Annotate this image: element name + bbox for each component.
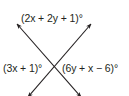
line-ascending xyxy=(28,24,91,96)
line-descending xyxy=(17,24,81,96)
angle-label-right: (6y + x − 6)° xyxy=(62,62,118,74)
angle-label-left: (3x + 1)° xyxy=(3,62,42,74)
angle-label-top: (2x + 2y + 1)° xyxy=(21,12,83,24)
